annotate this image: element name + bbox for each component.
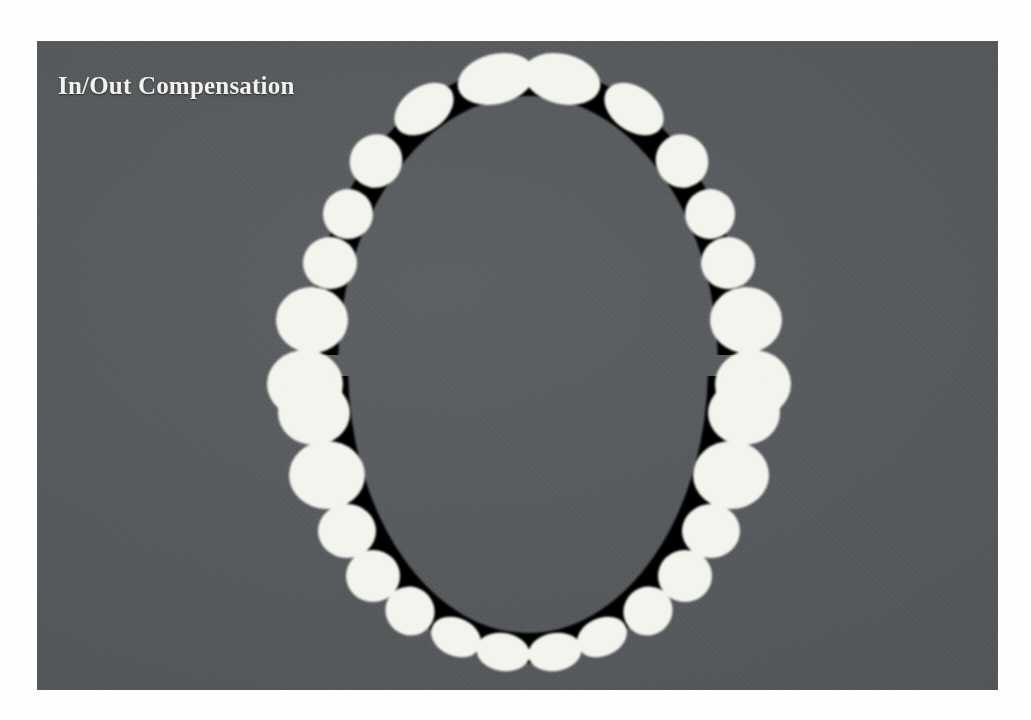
- tooth-upper-right-first-molar: [710, 287, 782, 353]
- tooth-lower-right-second-molar: [708, 381, 780, 445]
- tooth-lower-left-first-molar: [289, 441, 365, 509]
- tooth-upper-left-second-premolar: [303, 237, 357, 289]
- tooth-lower-right-first-molar: [693, 441, 769, 509]
- presentation-slide: [37, 41, 998, 690]
- tooth-lower-left-second-molar: [278, 381, 350, 445]
- tooth-upper-right-first-premolar: [685, 189, 735, 239]
- page-title: In/Out Compensation: [58, 72, 295, 100]
- slide-canvas: In/Out Compensation: [0, 0, 1031, 720]
- tooth-upper-right-second-premolar: [701, 237, 755, 289]
- tooth-upper-left-first-molar: [276, 287, 348, 353]
- tooth-lower-left-second-premolar: [318, 504, 376, 558]
- tooth-upper-left-first-premolar: [323, 189, 373, 239]
- tooth-lower-right-second-premolar: [682, 504, 740, 558]
- dental-arch-svg: [37, 41, 998, 690]
- dental-arch-diagram: [37, 41, 998, 690]
- upper-teeth-group: [267, 45, 791, 418]
